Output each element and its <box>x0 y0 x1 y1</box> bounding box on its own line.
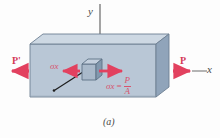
prism-right-face <box>156 34 169 97</box>
y-axis-label: y <box>88 6 93 17</box>
force-label-left: P' <box>12 56 21 66</box>
prism-top-face <box>30 34 169 44</box>
stress-equation: σx = P A <box>106 76 131 97</box>
figure-caption: (a) <box>103 117 115 127</box>
stress-equation-fraction: P A <box>124 76 132 97</box>
stress-equation-symbol: σx <box>106 81 114 91</box>
stress-element-cube <box>82 59 102 80</box>
stress-equation-numerator: P <box>124 76 132 85</box>
x-axis-label: x <box>207 64 212 75</box>
stress-label-left: σx <box>50 62 58 71</box>
axial-stress-figure: y x P' P σx σx = P A (a) <box>0 0 220 138</box>
stress-equation-operator: = <box>116 81 121 91</box>
stress-equation-denominator: A <box>124 87 132 96</box>
cube-front-face <box>82 64 96 80</box>
force-label-right: P <box>180 56 186 66</box>
leader-line-endpoint <box>53 89 56 92</box>
